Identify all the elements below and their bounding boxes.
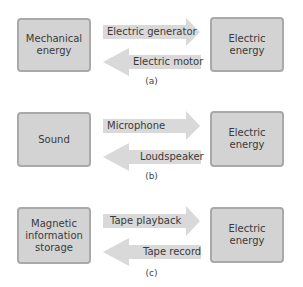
panel-a: Mechanical energy Electric generator Ele… — [0, 0, 303, 95]
box-label-line: Electric — [228, 127, 265, 139]
box-label-line: energy — [228, 45, 265, 57]
electric-energy-box: Electric energy — [210, 17, 284, 72]
box-label-line: energy — [228, 235, 265, 247]
electric-energy-box: Electric energy — [210, 111, 284, 167]
panel-b: Sound Microphone Loudspeaker Electric en… — [0, 95, 303, 190]
box-label-line: energy — [228, 139, 265, 151]
forward-arrow-label: Electric generator — [107, 26, 197, 38]
box-label-line: Electric — [228, 223, 265, 235]
caption-a: (a) — [0, 76, 303, 86]
forward-arrow-label: Tape playback — [110, 215, 181, 227]
backward-arrow-label: Loudspeaker — [140, 151, 204, 163]
caption-b: (b) — [0, 171, 303, 181]
backward-arrow-label: Electric motor — [133, 56, 203, 68]
box-label-line: Electric — [228, 33, 265, 45]
backward-arrow-label: Tape record — [143, 246, 201, 258]
electric-energy-box: Electric energy — [210, 207, 284, 263]
panel-c: Magnetic information storage Tape playba… — [0, 190, 303, 287]
caption-c: (c) — [0, 268, 303, 278]
forward-arrow-label: Microphone — [107, 120, 165, 132]
